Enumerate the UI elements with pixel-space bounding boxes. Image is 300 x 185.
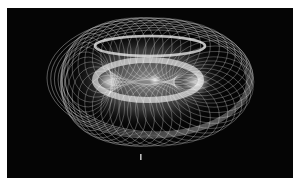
inner-glow	[65, 30, 231, 130]
small-light-mark	[140, 154, 142, 160]
light-trail-torus-image	[7, 8, 293, 178]
photo-frame	[7, 8, 293, 178]
